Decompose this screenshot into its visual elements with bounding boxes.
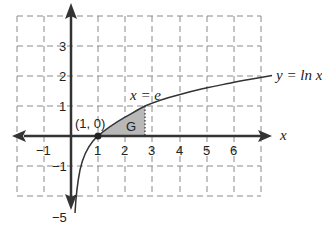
tick-x-3: 3 <box>148 143 155 158</box>
tick-x-5: 5 <box>203 143 210 158</box>
tick-x-4: 4 <box>176 143 183 158</box>
tick-y-neg5: −5 <box>52 210 67 225</box>
tick-y-2: 2 <box>59 69 66 84</box>
tick-y-neg1: −1 <box>52 159 67 174</box>
ln-graph: −1 1 2 3 4 5 6 3 2 1 −1 −5 (1, 0) G x = … <box>0 0 322 225</box>
region-g-label: G <box>126 119 136 134</box>
tick-y-1: 1 <box>59 99 66 114</box>
tick-x-neg1: −1 <box>36 143 51 158</box>
point-1-0 <box>95 133 102 140</box>
x-equals-e-label: x = e <box>129 87 161 103</box>
tick-x-6: 6 <box>230 143 237 158</box>
ln-curve <box>75 76 272 214</box>
curve-label: y = ln x <box>274 67 322 83</box>
tick-x-1: 1 <box>94 143 101 158</box>
tick-y-3: 3 <box>59 39 66 54</box>
point-label: (1, 0) <box>75 116 105 131</box>
x-axis-label: x <box>279 127 287 143</box>
tick-x-2: 2 <box>121 143 128 158</box>
x-axis-left-arrow-icon <box>12 130 26 142</box>
